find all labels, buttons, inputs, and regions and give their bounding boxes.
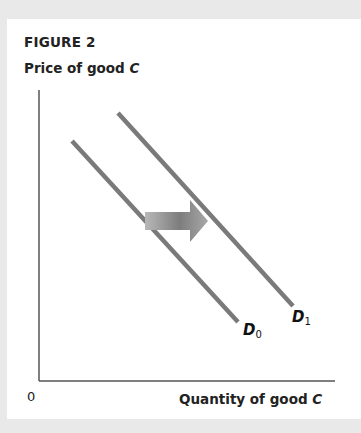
demand-shift-chart [0, 0, 361, 433]
shift-arrow-icon [145, 200, 208, 242]
demand-curve-d1 [118, 113, 293, 306]
demand-curve-d0 [72, 141, 238, 322]
origin-label: 0 [27, 389, 35, 404]
label-d0: D0 [243, 321, 262, 340]
label-d1: D1 [292, 308, 311, 327]
x-axis-label: Quantity of good C [179, 391, 322, 407]
